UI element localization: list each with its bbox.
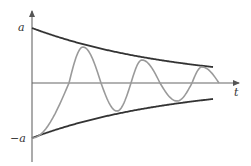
y-label-a: a — [18, 21, 25, 34]
upper-envelope-curve — [32, 28, 213, 67]
y-label-neg-a: −a — [10, 132, 26, 145]
damped-oscillation-chart: a −a t — [0, 0, 251, 166]
x-label-t: t — [234, 86, 239, 99]
damped-oscillation-curve — [32, 47, 219, 138]
